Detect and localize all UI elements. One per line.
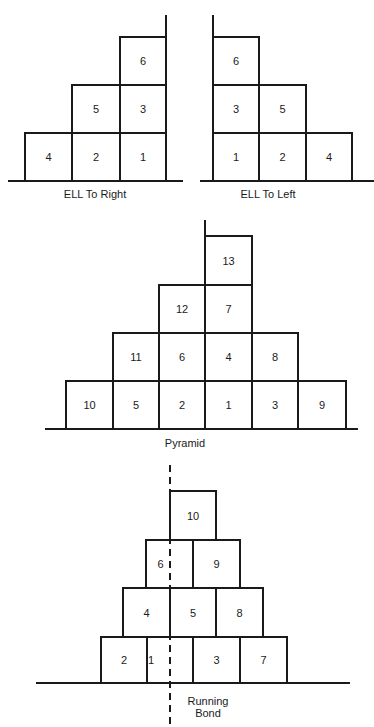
masonry-diagrams-canvas: 4215361243561052139116481271321374586910 bbox=[0, 0, 374, 727]
brick-number: 5 bbox=[93, 103, 99, 115]
brick: 9 bbox=[193, 540, 240, 588]
brick-number: 4 bbox=[225, 351, 231, 363]
brick: 5 bbox=[113, 381, 159, 429]
brick: 2 bbox=[101, 637, 147, 683]
brick-number: 2 bbox=[121, 654, 127, 666]
brick-number: 13 bbox=[222, 255, 234, 267]
brick: 2 bbox=[159, 381, 205, 429]
brick-number: 5 bbox=[190, 607, 196, 619]
brick-number: 3 bbox=[272, 399, 278, 411]
brick-number: 4 bbox=[143, 607, 149, 619]
ell-left-diagram: 124356 bbox=[200, 15, 374, 181]
brick-number: 7 bbox=[225, 303, 231, 315]
brick-number: 3 bbox=[233, 103, 239, 115]
caption-line: Bond bbox=[178, 707, 238, 719]
brick-number: 12 bbox=[176, 303, 188, 315]
brick-number: 4 bbox=[326, 151, 332, 163]
brick: 9 bbox=[298, 381, 346, 429]
brick: 5 bbox=[72, 85, 120, 133]
brick-number: 1 bbox=[140, 151, 146, 163]
brick-number: 6 bbox=[179, 351, 185, 363]
brick-number: 8 bbox=[236, 607, 242, 619]
pyramid-caption: Pyramid bbox=[135, 437, 235, 449]
brick: 2 bbox=[259, 133, 306, 181]
brick-number: 4 bbox=[45, 151, 51, 163]
brick: 4 bbox=[205, 333, 252, 381]
brick-number: 3 bbox=[140, 103, 146, 115]
brick: 13 bbox=[205, 236, 252, 285]
brick: 8 bbox=[216, 588, 263, 637]
brick-number: 5 bbox=[133, 399, 139, 411]
brick: 7 bbox=[205, 285, 252, 333]
brick: 12 bbox=[159, 285, 205, 333]
brick-number: 1 bbox=[233, 151, 239, 163]
running-bond-caption: RunningBond bbox=[178, 695, 238, 719]
brick: 3 bbox=[213, 85, 259, 133]
brick: 6 bbox=[213, 37, 259, 85]
brick-number: 6 bbox=[157, 558, 163, 570]
brick: 1 bbox=[213, 133, 259, 181]
brick: 4 bbox=[306, 133, 352, 181]
running-bond-diagram: 21374586910 bbox=[36, 465, 350, 725]
brick: 8 bbox=[252, 333, 298, 381]
brick-number: 1 bbox=[225, 399, 231, 411]
brick: 1 bbox=[120, 133, 166, 181]
ell-left-caption: ELL To Left bbox=[218, 188, 318, 200]
brick-number: 10 bbox=[187, 510, 199, 522]
brick: 6 bbox=[159, 333, 205, 381]
brick-number: 6 bbox=[140, 55, 146, 67]
ell-right-diagram: 421536 bbox=[8, 15, 183, 181]
brick-number: 10 bbox=[83, 399, 95, 411]
brick: 3 bbox=[193, 637, 240, 683]
brick: 7 bbox=[240, 637, 287, 683]
brick-number: 9 bbox=[213, 558, 219, 570]
brick-number: 2 bbox=[179, 399, 185, 411]
brick: 4 bbox=[25, 133, 72, 181]
brick-number: 7 bbox=[260, 654, 266, 666]
brick: 5 bbox=[170, 588, 216, 637]
brick: 10 bbox=[170, 491, 216, 540]
ell-right-caption: ELL To Right bbox=[45, 188, 145, 200]
brick-number: 11 bbox=[130, 351, 141, 363]
brick: 4 bbox=[123, 588, 170, 637]
pyramid-diagram: 10521391164812713 bbox=[45, 220, 358, 429]
brick: 2 bbox=[72, 133, 120, 181]
brick: 3 bbox=[120, 85, 166, 133]
brick: 11 bbox=[113, 333, 159, 381]
brick-number: 6 bbox=[233, 55, 239, 67]
brick-number: 2 bbox=[93, 151, 99, 163]
brick-number: 5 bbox=[279, 103, 285, 115]
brick: 3 bbox=[252, 381, 298, 429]
brick-number: 3 bbox=[213, 654, 219, 666]
brick-number: 1 bbox=[148, 654, 154, 666]
brick: 1 bbox=[205, 381, 252, 429]
brick: 6 bbox=[120, 37, 166, 85]
brick: 5 bbox=[259, 85, 306, 133]
brick: 10 bbox=[66, 381, 113, 429]
caption-line: Running bbox=[178, 695, 238, 707]
brick-number: 9 bbox=[319, 399, 325, 411]
brick-number: 8 bbox=[272, 351, 278, 363]
brick-number: 2 bbox=[279, 151, 285, 163]
